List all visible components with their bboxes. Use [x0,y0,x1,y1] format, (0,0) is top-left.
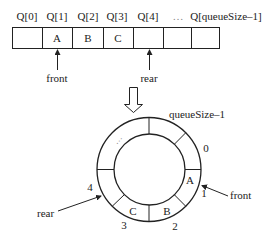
ring-cell: C [129,205,136,217]
index-label: Q[3] [107,10,128,22]
array-cell: C [114,32,121,44]
top-index-label: queueSize–1 [169,108,225,120]
ring-cell: A [186,174,194,186]
position-label: 2 [172,220,178,232]
linear-array-index-labels: Q[0] Q[1] Q[2] Q[3] Q[4] … Q[queueSize–1… [17,10,262,22]
index-label: Q[1] [47,10,68,22]
ring-ellipsis: … [111,133,124,146]
down-arrow-icon [125,88,143,113]
position-label: 4 [87,181,93,193]
queue-diagram: Q[0] Q[1] Q[2] Q[3] Q[4] … Q[queueSize–1… [0,0,267,241]
ring-front-label: front [230,189,251,201]
position-label: 1 [201,187,207,199]
array-cell: A [53,32,61,44]
index-label: Q[0] [17,10,38,22]
linear-array-cells: A B C [53,32,122,44]
array-cell: B [84,32,91,44]
rear-label: rear [140,72,157,84]
circular-queue [97,118,201,222]
ellipsis-label: … [173,10,184,22]
ring-cell: B [163,205,170,217]
inner-ring [114,134,185,205]
position-label: 3 [121,219,127,231]
index-label: Q[queueSize–1] [190,10,261,22]
front-label: front [46,72,67,84]
position-label: 0 [203,142,209,154]
ring-rear-arrow-icon [58,196,101,211]
index-label: Q[2] [78,10,99,22]
ring-rear-label: rear [37,207,54,219]
index-label: Q[4] [138,10,159,22]
